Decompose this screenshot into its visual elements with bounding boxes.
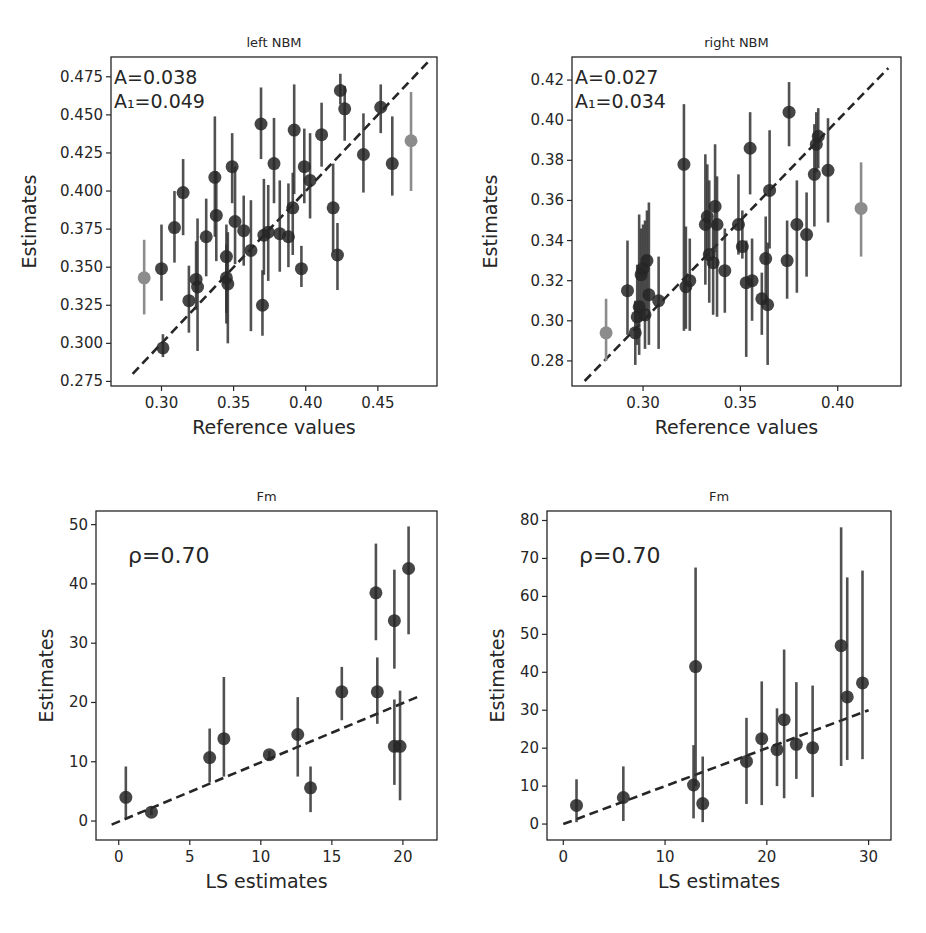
data-point — [570, 799, 583, 812]
y-tick-label: 70 — [520, 549, 539, 567]
data-point — [687, 778, 700, 791]
y-tick-label: 80 — [520, 511, 539, 529]
y-tick-label: 60 — [520, 587, 539, 605]
data-points — [570, 527, 869, 822]
data-point — [835, 639, 848, 652]
data-point — [617, 791, 630, 804]
x-tick-label: 30 — [859, 848, 878, 866]
data-point — [771, 743, 784, 756]
data-point — [755, 732, 768, 745]
data-point — [856, 676, 869, 689]
y-tick-label: 20 — [520, 739, 539, 757]
correlation-annotation: ρ=0.70 — [579, 543, 660, 568]
y-tick-label: 10 — [520, 777, 539, 795]
data-point — [689, 660, 702, 673]
data-point — [778, 713, 791, 726]
data-point — [841, 690, 854, 703]
y-tick-label: 30 — [520, 701, 539, 719]
y-tick-label: 50 — [520, 625, 539, 643]
y-tick-label: 40 — [520, 663, 539, 681]
scatter-plot-fm-right: Fm010203001020304050607080LS estimatesEs… — [0, 0, 926, 933]
data-point — [740, 755, 753, 768]
x-axis-label: LS estimates — [658, 870, 780, 892]
x-tick-label: 0 — [559, 848, 569, 866]
chart-title: Fm — [709, 489, 729, 504]
fit-line-dashed — [563, 710, 868, 824]
data-point — [696, 797, 709, 810]
y-axis-label: Estimates — [486, 629, 508, 723]
panel-fm-right: Fm010203001020304050607080LS estimatesEs… — [0, 0, 926, 933]
y-tick-label: 0 — [529, 815, 539, 833]
x-tick-label: 10 — [656, 848, 675, 866]
data-point — [806, 741, 819, 754]
x-tick-label: 20 — [757, 848, 776, 866]
data-point — [790, 738, 803, 751]
